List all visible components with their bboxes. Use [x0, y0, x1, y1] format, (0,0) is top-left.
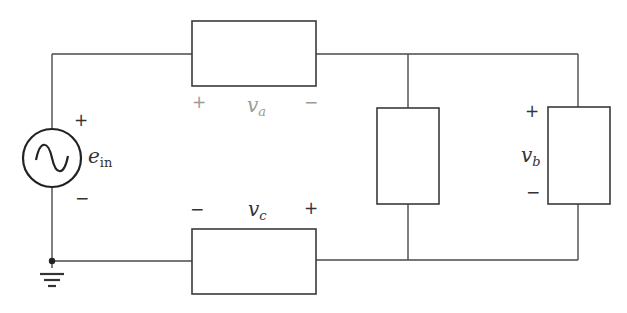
vb-label-sub: b: [532, 154, 540, 169]
source-plus-sign: +: [74, 112, 88, 129]
va-label-main: v: [247, 93, 258, 117]
source-label-main: e: [88, 144, 100, 168]
vc-minus-sign: −: [190, 201, 204, 218]
ground-icon: [40, 274, 64, 286]
vb-label: vb: [521, 145, 541, 168]
vc-plus-sign: +: [304, 200, 318, 217]
ac-source-icon: [23, 129, 81, 187]
element-top-box: [192, 21, 316, 86]
vb-label-main: v: [521, 143, 532, 167]
va-plus-sign: +: [192, 94, 206, 111]
vc-label: vc: [248, 199, 267, 222]
vc-label-main: v: [248, 197, 259, 221]
source-label-sub: in: [100, 155, 113, 170]
va-label-sub: a: [258, 104, 266, 119]
vc-label-sub: c: [259, 208, 266, 223]
element-bottom-box: [192, 229, 316, 294]
va-label: va: [247, 95, 266, 118]
source-label: ein: [88, 146, 112, 169]
element-middle-box: [377, 108, 439, 204]
junction-dot: [49, 258, 55, 264]
vb-minus-sign: −: [526, 184, 540, 201]
element-right-box: [548, 107, 610, 204]
vb-plus-sign: +: [525, 103, 539, 120]
circuit-diagram: + ein − + va − − vc + + vb −: [0, 0, 627, 313]
va-minus-sign: −: [304, 94, 318, 111]
source-minus-sign: −: [75, 190, 89, 207]
